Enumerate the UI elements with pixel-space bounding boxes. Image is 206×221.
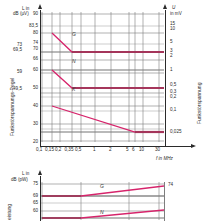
top-x-tick-label: 30	[155, 148, 160, 153]
top-y-tick-label: 50	[22, 86, 38, 91]
bottom-chart-right-border	[164, 182, 165, 221]
radio-interference-chart-figure: Funkstörspannungs-Pegel Funkstörspannung…	[0, 0, 206, 221]
series-k-curve	[52, 106, 164, 132]
top-secondary-y-tick-label: 0,2	[170, 95, 176, 100]
top-x-tick-label: 0,5	[75, 148, 81, 153]
top-y-tick-label: 69,5	[3, 48, 22, 53]
bottom-y-tick-label: 69	[22, 194, 38, 199]
top-y-tick-label: 66	[22, 57, 38, 62]
curve-label-g: G	[72, 31, 76, 37]
bottom-series-g-curve	[81, 186, 164, 196]
top-y-tick-label: 70	[22, 47, 38, 52]
top-chart-x-axis-line	[40, 146, 192, 147]
top-y-tick-label: 83,5	[16, 24, 38, 29]
top-chart-y-axis-line	[40, 10, 41, 146]
top-chart-secondary-y-axis-line	[165, 10, 166, 146]
series-g-curve	[52, 33, 164, 52]
top-secondary-y-tick-label: 5	[170, 40, 173, 45]
top-x-tick-label: 10	[139, 148, 144, 153]
top-chart-plot-area	[40, 12, 164, 144]
bottom-chart-y-axis-line	[40, 176, 41, 221]
top-chart-x-axis-arrow	[191, 144, 196, 148]
curve-label-k: K	[72, 86, 75, 92]
top-y-tick-label: 59	[9, 70, 22, 75]
bottom-chart-y-axis-arrow	[38, 170, 42, 175]
top-x-tick-label: 1	[93, 148, 96, 153]
top-x-axis-title: f in MHz	[156, 156, 173, 161]
top-secondary-y-tick-label: 1	[170, 68, 173, 73]
top-right-axis-rotated-label: Funkstörspannung	[196, 83, 202, 124]
bottom-right-annotation: 74	[168, 183, 173, 188]
top-x-tick-label: 5	[126, 148, 129, 153]
top-y-tick-label: 30	[22, 122, 38, 127]
top-y-tick-label: 60	[22, 68, 38, 73]
top-chart-y-axis-arrow	[38, 4, 42, 9]
top-x-tick-label: 2	[109, 148, 112, 153]
top-right-axis-unit-line2: in mV	[170, 11, 182, 16]
top-chart-secondary-y-axis-arrow	[163, 4, 167, 9]
top-secondary-y-tick-label: 0,5	[170, 83, 176, 88]
top-secondary-y-tick-label: 0,1	[170, 108, 176, 113]
bottom-y-tick-label: 75	[22, 182, 38, 187]
top-y-tick-label: 74	[22, 41, 38, 46]
top-x-tick-label: 0,15	[45, 148, 54, 153]
bottom-curve-label-n: N	[100, 209, 104, 215]
top-x-tick-label: 0,35	[65, 148, 74, 153]
top-x-tick-label: 0,1	[36, 148, 42, 153]
top-y-tick-label: 49,5	[3, 87, 22, 92]
top-secondary-y-tick-label: 10	[170, 27, 175, 32]
bottom-curve-label-g: G	[100, 183, 104, 189]
top-y-tick-label: 80	[22, 31, 38, 36]
bottom-y-tick-label: 60	[22, 209, 38, 214]
top-secondary-y-tick-label: 2	[170, 54, 173, 59]
series-n-curve	[52, 70, 164, 88]
top-y-tick-label: 90	[22, 12, 38, 17]
top-chart: Funkstörspannungs-Pegel Funkstörspannung…	[0, 0, 206, 168]
top-x-tick-label: 6	[132, 148, 135, 153]
top-y-tick-label: 40	[22, 104, 38, 109]
top-right-axis-unit-line1: U	[172, 5, 175, 10]
curve-label-n: N	[72, 58, 76, 64]
bottom-y-tick-label: 65	[22, 201, 38, 206]
bottom-chart: eistung L in dB (pW)	[0, 168, 206, 221]
top-x-tick-label: 0,2	[55, 148, 61, 153]
bottom-left-axis-rotated-label: eistung	[6, 204, 12, 220]
top-y-tick-label: 20	[22, 140, 38, 145]
bottom-left-axis-unit-line1: L in	[22, 171, 29, 176]
top-secondary-y-tick-label: 0,025	[170, 130, 182, 135]
